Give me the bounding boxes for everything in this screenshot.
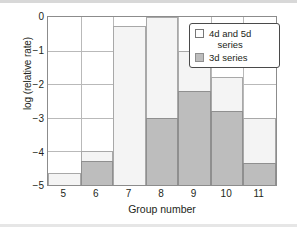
bar-group-6 xyxy=(81,17,113,185)
x-tick-label: 9 xyxy=(179,188,209,200)
x-tick-label: 7 xyxy=(113,188,143,200)
y-axis-ticks: 0 −1 −2 −3 −4 −5 xyxy=(18,0,44,227)
bar-segment-4d-5d-series xyxy=(113,26,146,185)
chart-figure: log (relative rate) 0 −1 −2 −3 −4 −5 567… xyxy=(0,0,297,227)
page-edge-bottom xyxy=(0,224,297,227)
y-tick-label: −4 xyxy=(20,148,44,158)
legend-label: 4d and 5d series xyxy=(209,28,251,50)
bar-group-7 xyxy=(113,17,146,185)
bar-segment-3d-series xyxy=(146,118,178,185)
bar-segment-4d-5d-series xyxy=(48,173,81,185)
legend-label-line1: 4d and 5d xyxy=(209,28,251,39)
bar-segment-3d-series xyxy=(81,161,113,185)
legend-label-line2: series xyxy=(209,39,251,50)
y-tick-label: −1 xyxy=(20,46,44,56)
x-tick-label: 6 xyxy=(81,188,111,200)
x-tick-label: 11 xyxy=(244,188,274,200)
legend-swatch-light-icon xyxy=(195,29,204,38)
x-axis-label: Group number xyxy=(47,203,277,215)
legend-entry-3d-series: 3d series xyxy=(195,52,274,63)
x-tick-label: 5 xyxy=(48,188,78,200)
legend-entry-4d-and-5d-series: 4d and 5d series xyxy=(195,28,274,50)
y-tick-label: 0 xyxy=(20,12,44,22)
chart-legend: 4d and 5d series 3d series xyxy=(189,23,280,68)
y-tick-label: −2 xyxy=(20,80,44,90)
x-tick-label: 8 xyxy=(146,188,176,200)
legend-swatch-dark-icon xyxy=(195,53,204,62)
page-edge-top xyxy=(0,0,297,3)
y-tick-label: −5 xyxy=(20,181,44,191)
bar-group-5 xyxy=(48,17,81,185)
x-axis-ticks: 567891011 xyxy=(47,188,277,202)
bar-segment-3d-series xyxy=(178,91,211,185)
y-tick-label: −3 xyxy=(20,114,44,124)
bar-segment-3d-series xyxy=(243,163,276,185)
legend-label: 3d series xyxy=(209,52,248,63)
bar-group-8 xyxy=(146,17,178,185)
bar-segment-3d-series xyxy=(211,111,243,185)
x-tick-label: 10 xyxy=(211,188,241,200)
